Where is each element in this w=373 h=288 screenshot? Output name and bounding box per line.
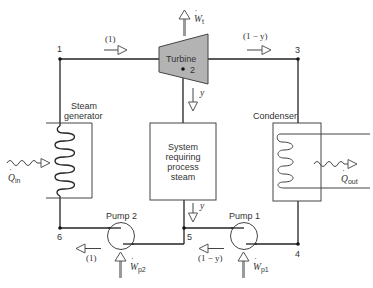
state-1-dot xyxy=(58,57,62,61)
state-3-dot xyxy=(296,57,300,61)
pump-2-work-arrow xyxy=(115,252,126,278)
pump-2-label: Pump 2 xyxy=(106,211,137,221)
process-system-line-3: process xyxy=(167,162,199,172)
flow-arrow-extraction xyxy=(189,88,198,111)
flow-arrow-top-right xyxy=(247,46,271,55)
flow-bottom-right-label: (1 − y) xyxy=(198,253,223,263)
state-5-label: 5 xyxy=(187,232,192,242)
pump-1-work-dot: · xyxy=(254,253,257,263)
flow-extraction-label: y xyxy=(199,88,205,98)
condenser-box xyxy=(273,123,321,201)
heat-out-arrow xyxy=(314,160,357,169)
heat-in-dot: · xyxy=(9,164,12,174)
state-4-dot xyxy=(296,242,300,246)
heat-in-label: Qin xyxy=(8,173,20,184)
steam-generator-coil xyxy=(55,126,75,196)
cogeneration-diagram: Turbine 2 Wt · (1) (1 − y) 1 3 y Steam g… xyxy=(0,0,373,288)
steam-generator-label-2: generator xyxy=(64,111,103,121)
pump-1 xyxy=(231,223,258,250)
pump-1-label: Pump 1 xyxy=(229,211,260,221)
heat-out-dot: · xyxy=(342,165,345,175)
steam-generator-label-1: Steam xyxy=(71,101,97,111)
flow-arrow-bottom-right xyxy=(199,244,224,253)
state-6-dot xyxy=(58,226,62,230)
flow-top-left-label: (1) xyxy=(105,34,116,44)
state-2-dot xyxy=(181,67,185,71)
condenser-label: Condenser xyxy=(253,111,297,121)
turbine-label: Turbine xyxy=(166,54,196,64)
steam-generator-box xyxy=(46,123,92,198)
process-system-line-4: steam xyxy=(171,172,196,182)
process-system-line-1: System xyxy=(168,142,198,152)
state-5-dot xyxy=(182,226,186,230)
process-system-line-2: requiring xyxy=(165,152,200,162)
pump-2 xyxy=(108,223,135,250)
pump-2-work-dot: · xyxy=(131,253,134,263)
turbine-work-arrow xyxy=(179,10,190,36)
pump-1-work-label: Wp1 xyxy=(253,262,269,274)
state-1-label: 1 xyxy=(57,44,62,54)
state-3-label: 3 xyxy=(295,45,300,55)
state-2-label: 2 xyxy=(190,65,195,75)
heat-in-arrow xyxy=(7,159,50,168)
pump-2-work-label: Wp2 xyxy=(130,262,146,274)
flow-bottom-left-label: (1) xyxy=(86,253,97,263)
state-4-label: 4 xyxy=(295,249,300,259)
flow-process-out-label: y xyxy=(199,201,205,211)
turbine-work-label: Wt xyxy=(194,14,204,25)
flow-arrow-process-out xyxy=(189,203,198,222)
pump-1-work-arrow xyxy=(238,252,249,278)
heat-out-label: Qout xyxy=(341,174,358,185)
flow-arrow-bottom-left xyxy=(76,244,101,253)
flow-top-right-label: (1 − y) xyxy=(243,31,268,41)
state-6-label: 6 xyxy=(57,232,62,242)
turbine-work-dot: · xyxy=(195,5,198,15)
flow-arrow-top-left xyxy=(104,46,127,55)
